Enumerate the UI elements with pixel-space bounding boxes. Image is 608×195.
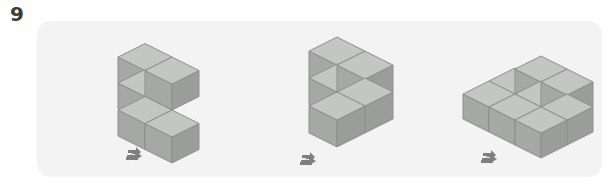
question-number: 9 [10,2,24,26]
figure-2-cubes [267,21,457,177]
direction-arrow-icon [480,149,502,167]
direction-arrow-icon [125,146,147,164]
figure-panel [37,21,602,177]
direction-arrow-icon [299,151,321,169]
figure-2 [267,21,437,177]
figure-3 [445,21,608,177]
figure-1-cubes [75,21,265,177]
figure-1 [75,21,245,177]
figure-3-cubes [445,21,608,177]
worksheet-canvas: 9 [0,0,608,195]
